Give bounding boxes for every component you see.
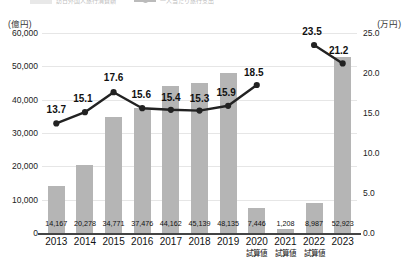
line-marker [139, 105, 145, 111]
line-marker [340, 60, 346, 66]
bar-value-label: 52,923 [332, 219, 354, 228]
x-axis-label: 2013 [45, 236, 67, 248]
legend-label-bar-series: 訪日外国人旅行消費額 [56, 0, 116, 5]
right-axis-tick: 20.0 [363, 68, 380, 78]
legend-item-line-series: 一人当たり旅行支出 [134, 0, 214, 5]
x-axis-year: 2016 [131, 236, 153, 248]
left-axis-tick: 10,000 [2, 195, 38, 205]
line-value-label: 15.3 [190, 93, 209, 104]
x-axis-label: 2017 [160, 236, 182, 248]
bar-value-label: 34,771 [103, 219, 125, 228]
x-axis-year: 2018 [188, 236, 210, 248]
right-axis-tick: 25.0 [363, 28, 380, 38]
line-value-label: 15.6 [131, 89, 150, 100]
x-axis-year: 2015 [102, 236, 124, 248]
line-swatch-icon [134, 0, 156, 4]
line-value-label: 23.5 [302, 26, 321, 37]
line-value-label: 13.7 [47, 104, 66, 115]
x-axis-year: 2020 [246, 236, 268, 248]
line-value-label: 21.2 [329, 45, 348, 56]
line-value-label: 18.5 [244, 67, 263, 78]
line-marker [110, 89, 116, 95]
right-axis-tick: 0.0 [363, 228, 375, 238]
axis-baseline [38, 233, 361, 235]
line-marker [254, 82, 260, 88]
line-series [42, 33, 357, 233]
right-axis-tick: 10.0 [363, 148, 380, 158]
x-axis-year: 2017 [160, 236, 182, 248]
right-axis-tick: 15.0 [363, 108, 380, 118]
bar-value-label: 44,162 [160, 219, 182, 228]
x-axis-year: 2021 [274, 236, 296, 248]
chart-root: 訪日外国人旅行消費額 一人当たり旅行支出 (億円) (万円) 60,00050,… [0, 0, 405, 273]
x-axis-label: 2014 [74, 236, 96, 248]
left-axis-tick: 40,000 [2, 95, 38, 105]
x-axis-label: 2023 [332, 236, 354, 248]
right-axis-unit: (万円) [377, 17, 401, 29]
x-axis-label: 2018 [188, 236, 210, 248]
x-axis-year: 2013 [45, 236, 67, 248]
bar-value-label: 20,278 [74, 219, 96, 228]
bar-value-label: 14,167 [45, 219, 67, 228]
line-marker [225, 103, 231, 109]
left-axis-tick: 30,000 [2, 128, 38, 138]
x-axis-sublabel: 試算値 [246, 248, 268, 259]
bar-value-label: 8,987 [305, 219, 323, 228]
x-axis-labels: 20132014201520162017201820192020試算値2021試… [42, 236, 357, 270]
bar-swatch-icon [30, 0, 52, 4]
x-axis-label: 2021試算値 [274, 236, 296, 259]
x-axis-year: 2022 [303, 236, 325, 248]
line-marker [196, 108, 202, 114]
chart-legend: 訪日外国人旅行消費額 一人当たり旅行支出 [30, 0, 214, 5]
x-axis-sublabel: 試算値 [303, 248, 325, 259]
bar-value-label: 45,139 [189, 219, 211, 228]
bar-value-label: 37,476 [131, 219, 153, 228]
line-value-label: 17.6 [104, 72, 123, 83]
bar-value-label: 1,208 [276, 219, 294, 228]
x-axis-year: 2014 [74, 236, 96, 248]
legend-item-bar-series: 訪日外国人旅行消費額 [30, 0, 116, 5]
x-axis-label: 2019 [217, 236, 239, 248]
left-axis-tick: 0 [2, 228, 38, 238]
x-axis-label: 2020試算値 [246, 236, 268, 259]
line-value-label: 15.4 [161, 92, 180, 103]
left-axis-tick: 50,000 [2, 61, 38, 71]
right-axis-tick: 5.0 [363, 188, 375, 198]
line-value-label: 15.1 [73, 93, 92, 104]
line-marker [168, 107, 174, 113]
line-marker [53, 120, 59, 126]
bar-value-label: 48,135 [217, 219, 239, 228]
left-axis-tick: 60,000 [2, 28, 38, 38]
x-axis-label: 2016 [131, 236, 153, 248]
line-value-label: 15.9 [216, 87, 235, 98]
bar-value-label: 7,446 [248, 219, 266, 228]
x-axis-label: 2015 [102, 236, 124, 248]
x-axis-year: 2023 [332, 236, 354, 248]
left-axis-tick: 20,000 [2, 161, 38, 171]
plot-area [42, 33, 357, 233]
x-axis-sublabel: 試算値 [274, 248, 296, 259]
line-marker [311, 42, 317, 48]
x-axis-label: 2022試算値 [303, 236, 325, 259]
legend-label-line-series: 一人当たり旅行支出 [160, 0, 214, 5]
line-marker [82, 109, 88, 115]
x-axis-year: 2019 [217, 236, 239, 248]
